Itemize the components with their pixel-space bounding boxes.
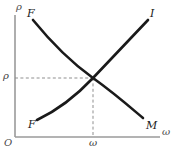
origin-label: O bbox=[4, 138, 12, 148]
economics-supply-demand-figure: ρ ω O F M F I ρ ω bbox=[0, 0, 177, 152]
demand-curve-start-label: F bbox=[27, 8, 35, 19]
equilibrium-price-label: ρ bbox=[3, 71, 9, 81]
supply-curve-end-label: I bbox=[150, 8, 154, 19]
supply-curve-start-label: F bbox=[28, 119, 36, 130]
x-axis-label: ω bbox=[162, 127, 170, 137]
demand-curve-path bbox=[33, 20, 143, 118]
demand-curve-end-label: M bbox=[146, 120, 157, 131]
equilibrium-quantity-label: ω bbox=[89, 138, 97, 148]
y-axis-label: ρ bbox=[16, 2, 22, 12]
